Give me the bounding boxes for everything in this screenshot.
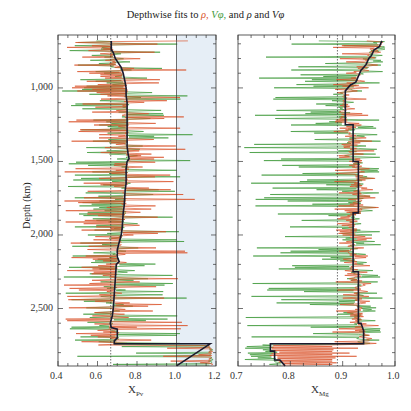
vphi-fit-line	[244, 41, 385, 365]
xlabel-left-main: X	[128, 383, 136, 395]
y-tick-label: 2,500	[31, 302, 54, 313]
xlabel-right-main: X	[311, 383, 319, 395]
y-tick-label: 1,500	[31, 154, 54, 165]
x-axis-label-left: XPv	[128, 383, 143, 398]
chart-canvas	[0, 0, 411, 411]
left-panel-xpv	[58, 35, 216, 366]
xlabel-right-sub: Mg	[319, 390, 329, 398]
x-tick-label: 1.0	[387, 370, 400, 381]
x-tick-label: 0.7	[230, 370, 243, 381]
x-axis-label-right: XMg	[311, 383, 329, 398]
right-panel-xmg	[238, 35, 395, 366]
x-tick-label: 0.4	[50, 370, 63, 381]
y-tick-label: 1,000	[31, 81, 54, 92]
x-tick-label: 0.8	[282, 370, 295, 381]
shaded-region	[177, 35, 217, 366]
y-tick-label: 2,000	[31, 228, 54, 239]
xlabel-left-sub: Pv	[136, 390, 143, 398]
x-tick-label: 0.8	[129, 370, 142, 381]
x-tick-label: 1.2	[208, 370, 221, 381]
x-tick-label: 0.9	[335, 370, 348, 381]
x-tick-label: 1.0	[169, 370, 182, 381]
x-tick-label: 0.6	[90, 370, 103, 381]
